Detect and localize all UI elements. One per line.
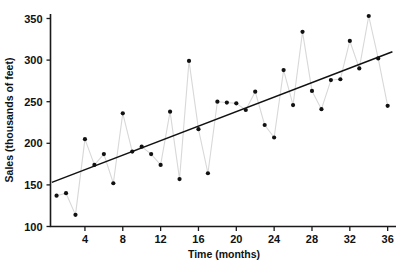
data-point xyxy=(272,135,276,139)
data-point xyxy=(329,78,333,82)
data-point xyxy=(338,77,342,81)
chart-canvas: 350300250200150100 4812162024283236 Time… xyxy=(0,0,401,267)
data-point xyxy=(234,101,238,105)
data-point xyxy=(83,137,87,141)
data-point xyxy=(291,103,295,107)
data-point xyxy=(348,39,352,43)
data-point xyxy=(357,66,361,70)
data-point xyxy=(130,150,134,154)
data-point xyxy=(300,30,304,34)
data-point xyxy=(92,163,96,167)
data-point xyxy=(140,145,144,149)
data-point xyxy=(187,59,191,63)
data-point xyxy=(253,90,257,94)
data-point xyxy=(111,181,115,185)
y-tick-label: 200 xyxy=(24,137,42,149)
x-tick-label: 16 xyxy=(192,233,204,245)
data-point xyxy=(386,104,390,108)
y-tick-label: 300 xyxy=(24,54,42,66)
y-axis-title: Sales (thousands of feet) xyxy=(3,58,15,183)
data-point xyxy=(159,163,163,167)
x-tick-label: 12 xyxy=(154,233,166,245)
data-point xyxy=(225,100,229,104)
x-tick-label: 32 xyxy=(344,233,356,245)
y-tick-label: 250 xyxy=(24,96,42,108)
data-point xyxy=(367,14,371,18)
data-point xyxy=(121,111,125,115)
y-tick-label: 350 xyxy=(24,13,42,25)
data-point xyxy=(263,123,267,127)
data-point xyxy=(215,100,219,104)
sales-scatter-chart: 350300250200150100 4812162024283236 Time… xyxy=(0,0,401,267)
data-point xyxy=(168,110,172,114)
data-point xyxy=(310,89,314,93)
data-point xyxy=(376,56,380,60)
x-tick-label: 20 xyxy=(230,233,242,245)
data-point xyxy=(196,127,200,131)
data-point xyxy=(244,108,248,112)
x-tick-label: 36 xyxy=(382,233,394,245)
x-tick-label: 4 xyxy=(82,233,89,245)
data-point xyxy=(177,177,181,181)
data-point xyxy=(206,171,210,175)
data-point xyxy=(319,107,323,111)
data-point xyxy=(54,194,58,198)
x-tick-label: 24 xyxy=(268,233,281,245)
data-point xyxy=(282,68,286,72)
y-tick-label: 150 xyxy=(24,179,42,191)
x-tick-label: 8 xyxy=(120,233,126,245)
data-point xyxy=(73,213,77,217)
x-tick-label: 28 xyxy=(306,233,318,245)
y-tick-label: 100 xyxy=(24,221,42,233)
data-point xyxy=(149,152,153,156)
data-point xyxy=(64,191,68,195)
x-axis-title: Time (months) xyxy=(188,248,260,260)
data-point xyxy=(102,152,106,156)
